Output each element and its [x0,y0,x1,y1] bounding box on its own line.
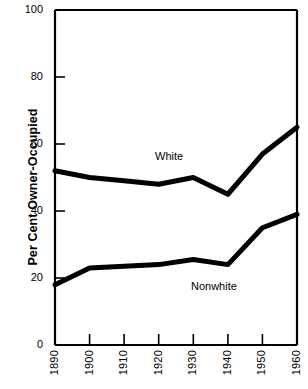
x-tick-label-1940: 1940 [222,350,233,375]
x-tick-label-1910: 1910 [118,350,129,375]
x-tick-marks [90,334,263,345]
x-tick-label-1950: 1950 [256,350,267,375]
x-tick-label-1920: 1920 [153,350,164,375]
series-annotation-nonwhite: Nonwhite [191,280,237,292]
y-tick-label-80: 80 [31,71,43,82]
series-line-nonwhite [55,214,297,284]
chart-svg [0,0,308,389]
y-tick-label-60: 60 [31,138,43,149]
x-tick-label-1900: 1900 [84,350,95,375]
y-tick-label-40: 40 [31,205,43,216]
y-tick-label-0: 0 [37,339,43,350]
x-tick-label-1890: 1890 [49,350,60,375]
y-tick-label-20: 20 [31,272,43,283]
chart-container: Per Cent Owner-Occupied [0,0,308,389]
y-tick-label-100: 100 [25,4,43,15]
series-annotation-white: White [155,150,183,162]
x-tick-label-1960: 1960 [291,350,302,375]
y-tick-marks [55,77,65,278]
x-tick-label-1930: 1930 [187,350,198,375]
